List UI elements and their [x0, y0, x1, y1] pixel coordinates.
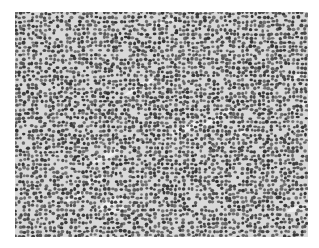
micrograph-image: [15, 12, 308, 237]
cell-field: [15, 12, 308, 237]
